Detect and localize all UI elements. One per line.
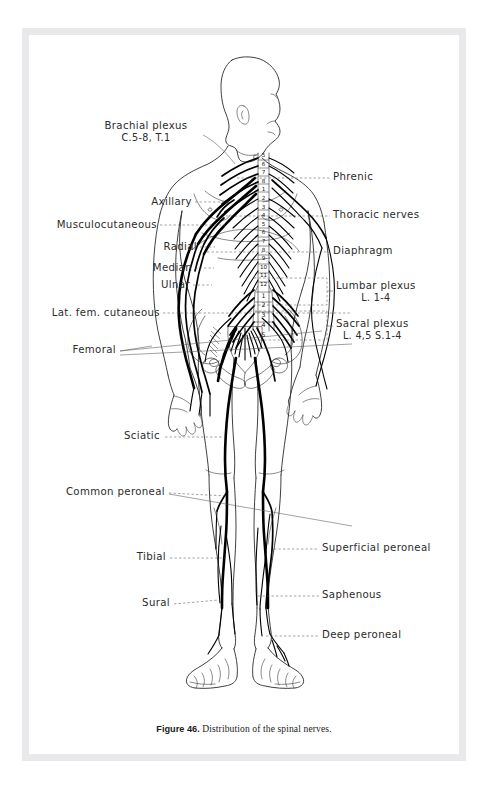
vertebra-number-t-12: 12 (259, 282, 268, 288)
label-lat-fem-cutaneous-text: Lat. fem. cutaneous (52, 307, 160, 318)
vertebra-number-t-1: 1 (259, 187, 268, 193)
label-sciatic: Sciatic (102, 430, 160, 442)
vertebra-number-l-3: 3 (258, 312, 269, 318)
label-femoral: Femoral (48, 344, 116, 356)
label-superficial-peroneal: Superficial peroneal (322, 542, 431, 554)
label-sacral-plexus-sub: L. 4,5 S.1-4 (336, 330, 409, 342)
head-outline (221, 57, 280, 162)
vertebra-number-l-4: 4 (258, 322, 269, 328)
vertebra-number-t-10: 10 (259, 265, 268, 271)
label-tibial-text: Tibial (137, 551, 166, 562)
vertebra-marker-cervical: C (253, 154, 257, 160)
label-median-text: Median (153, 262, 192, 273)
label-saphenous-text: Saphenous (322, 589, 382, 600)
label-diaphragm-text: Diaphragm (333, 245, 393, 256)
vertebra-number-l-2: 2 (258, 302, 269, 308)
label-sural: Sural (120, 597, 170, 609)
label-thoracic-nerves-text: Thoracic nerves (333, 209, 419, 220)
label-radial: Radial (118, 241, 197, 253)
label-musculocutaneous-text: Musculocutaneous (57, 219, 157, 230)
label-tibial: Tibial (118, 551, 166, 563)
vertebra-number-c-8: 8 (259, 179, 268, 185)
vertebra-number-t-11: 11 (259, 273, 268, 279)
label-deep-peroneal-text: Deep peroneal (322, 629, 401, 640)
vertebra-number-t-2: 2 (259, 196, 268, 202)
body-outline (153, 146, 330, 688)
label-sural-text: Sural (142, 597, 170, 608)
vertebra-number-t-7: 7 (259, 239, 268, 245)
label-brachial-plexus: Brachial plexus C.5-8, T.1 (84, 120, 208, 144)
label-lumbar-plexus-text: Lumbar plexus (336, 280, 416, 291)
page-root: .out { fill:none; stroke:#2a2a2a; stroke… (0, 0, 491, 790)
figure-plate: .out { fill:none; stroke:#2a2a2a; stroke… (22, 28, 466, 761)
label-sacral-plexus: Sacral plexus L. 4,5 S.1-4 (336, 318, 409, 342)
label-ulnar: Ulnar (120, 279, 190, 291)
label-common-peroneal: Common peroneal (42, 486, 165, 498)
vertebra-number-t-9: 9 (259, 256, 268, 262)
label-median: Median (110, 262, 192, 274)
label-brachial-plexus-sub: C.5-8, T.1 (84, 132, 208, 144)
figure-caption-text: Distribution of the spinal nerves. (202, 723, 331, 734)
vertebra-number-t-3: 3 (259, 205, 268, 211)
label-axillary: Axillary (104, 196, 192, 208)
label-lat-fem-cutaneous: Lat. fem. cutaneous (26, 307, 160, 319)
vertebra-number-t-4: 4 (259, 213, 268, 219)
label-musculocutaneous: Musculocutaneous (34, 219, 157, 231)
vertebra-number-t-5: 5 (259, 222, 268, 228)
spinal-nerve-roots (220, 158, 295, 301)
vertebra-number-c-5: 5 (259, 153, 268, 159)
vertebra-number-l-1: 1 (258, 293, 269, 299)
vertebra-number-c-7: 7 (259, 170, 268, 176)
label-superficial-peroneal-text: Superficial peroneal (322, 542, 431, 553)
label-saphenous: Saphenous (322, 589, 382, 601)
sciatic-nerve (225, 358, 265, 492)
femoral-nerves (205, 318, 288, 381)
label-lumbar-plexus-sub: L. 1-4 (336, 292, 416, 304)
vertebra-number-l-5: 5 (258, 332, 269, 338)
label-brachial-plexus-text: Brachial plexus (104, 120, 187, 131)
label-deep-peroneal: Deep peroneal (322, 629, 401, 641)
label-thoracic-nerves: Thoracic nerves (333, 209, 419, 221)
label-axillary-text: Axillary (151, 196, 192, 207)
vertebra-number-t-8: 8 (259, 248, 268, 254)
label-ulnar-text: Ulnar (161, 279, 190, 290)
label-diaphragm: Diaphragm (333, 245, 393, 257)
label-sciatic-text: Sciatic (124, 430, 160, 441)
figure-number: Figure 46. (156, 724, 199, 734)
label-common-peroneal-text: Common peroneal (66, 486, 165, 497)
figure-caption: Figure 46. Distribution of the spinal ne… (22, 723, 466, 734)
label-femoral-text: Femoral (73, 344, 116, 355)
label-phrenic: Phrenic (333, 171, 373, 183)
label-radial-text: Radial (163, 241, 197, 252)
vertebra-number-t-6: 6 (259, 230, 268, 236)
label-phrenic-text: Phrenic (333, 171, 373, 182)
label-sacral-plexus-text: Sacral plexus (336, 318, 409, 329)
vertebra-number-c-6: 6 (259, 162, 268, 168)
label-lumbar-plexus: Lumbar plexus L. 1-4 (336, 280, 416, 304)
